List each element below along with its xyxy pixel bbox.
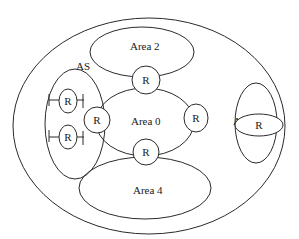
router-area3-label: R (255, 119, 263, 131)
router-left-top[interactable]: R (59, 89, 77, 113)
router-left-top-label: R (64, 95, 72, 107)
router-right-label: R (192, 112, 200, 124)
router-top-label: R (142, 74, 150, 86)
ospf-diagram: AS Area 2 Area 4 Area 0 Area 3 R R R (0, 0, 299, 239)
router-bottom[interactable]: R (133, 139, 159, 165)
router-top[interactable]: R (132, 66, 160, 94)
router-area3[interactable]: R (235, 114, 283, 136)
area-0-label: Area 0 (131, 115, 161, 127)
area-4-label: Area 4 (133, 184, 163, 196)
router-left-border-label: R (93, 114, 101, 126)
router-bottom-label: R (142, 146, 150, 158)
router-left-border[interactable]: R (84, 107, 110, 133)
router-left-bottom-label: R (64, 131, 72, 143)
router-left-bottom[interactable]: R (59, 125, 77, 149)
as-label: AS (76, 60, 90, 72)
router-right[interactable]: R (184, 104, 208, 132)
area-2-label: Area 2 (130, 40, 160, 52)
